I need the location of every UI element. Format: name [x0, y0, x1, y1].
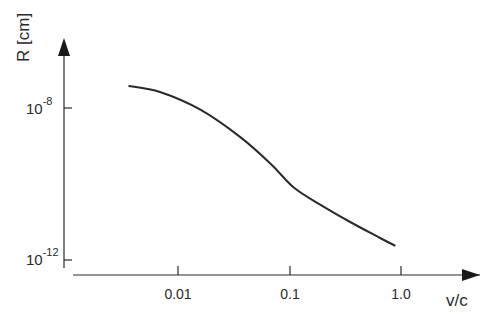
- y-tick-base: 10: [26, 100, 43, 117]
- y-tick-label-1e-12: 10-12: [26, 249, 59, 268]
- y-axis-arrow-icon: [58, 38, 70, 56]
- x-tick-label-0.01: 0.01: [164, 286, 191, 302]
- y-tick-base: 10: [26, 251, 43, 268]
- y-axis-label: R [cm]: [14, 13, 34, 62]
- x-tick-label-0.1: 0.1: [280, 286, 299, 302]
- x-axis-label: v/c: [446, 291, 468, 311]
- x-axis-arrow-icon: [462, 269, 480, 281]
- y-tick-exponent: -8: [43, 95, 53, 107]
- x-tick-label-1.0: 1.0: [391, 286, 410, 302]
- y-tick-label-1e-8: 10-8: [26, 98, 52, 117]
- y-tick-exponent: -12: [43, 246, 59, 258]
- plot-area: [0, 0, 504, 320]
- data-curve: [129, 86, 396, 246]
